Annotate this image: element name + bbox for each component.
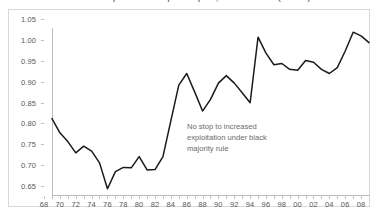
chart-annotation-line: majority rule	[187, 143, 299, 154]
chart-frame: 0.650.700.750.800.850.900.951.001.05 687…	[8, 9, 370, 207]
chart-annotation: No stop to increasedexploitation under b…	[187, 121, 299, 155]
chart-annotation-line: exploitation under black	[187, 132, 299, 143]
chart-figure: Platinum production per capita, 1968-200…	[0, 0, 378, 216]
data-series-svg	[9, 10, 378, 216]
chart-annotation-line: No stop to increased	[187, 121, 299, 132]
line-series-path	[52, 32, 369, 189]
figure-title-clipped: Platinum production per capita, 1968-200…	[0, 0, 378, 8]
figure-title-text: Platinum production per capita, 1968-200…	[67, 0, 311, 2]
